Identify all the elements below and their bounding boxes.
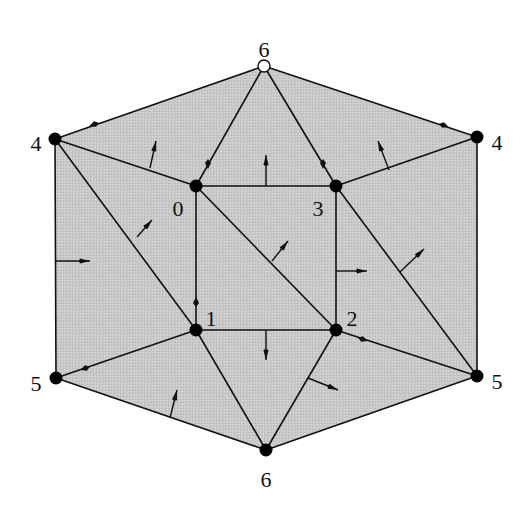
triangulated-hexagon-diagram: 6440312556 [0, 0, 527, 513]
vertex-v5-left [50, 372, 63, 385]
vertex-label-v4-left: 4 [31, 131, 42, 156]
vertex-v4-right [471, 131, 484, 144]
vertex-v5-right [471, 370, 484, 383]
vertex-label-v3: 3 [313, 196, 324, 221]
vertex-v4-left [49, 133, 62, 146]
vertex-v6-bottom [260, 444, 273, 457]
vertex-label-v0: 0 [173, 196, 184, 221]
vertex-label-v2: 2 [347, 306, 358, 331]
vertex-label-v4-right: 4 [492, 130, 503, 155]
vertex-label-v5-right: 5 [492, 369, 503, 394]
mesh-edge [55, 139, 56, 378]
vertex-v1 [190, 324, 203, 337]
vertex-label-v1: 1 [206, 306, 217, 331]
vertex-label-v6-top: 6 [259, 37, 270, 62]
vertex-v3 [330, 180, 343, 193]
vertex-label-v5-left: 5 [31, 371, 42, 396]
vertex-v2 [330, 324, 343, 337]
vertex-label-v6-bottom: 6 [261, 467, 272, 492]
vertex-v0 [190, 180, 203, 193]
